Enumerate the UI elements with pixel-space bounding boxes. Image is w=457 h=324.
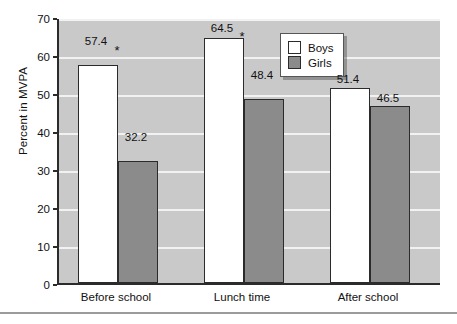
- plot-area: Boys Girls: [57, 19, 440, 285]
- x-axis-label-before-school: Before school: [81, 291, 151, 303]
- legend-item-boys[interactable]: Boys: [288, 41, 334, 54]
- bottom-divider: [0, 312, 457, 314]
- y-tick-label-20: 20: [0, 203, 57, 215]
- value-label-girls-before-school: 32.2: [125, 131, 147, 143]
- bar-boys-after-school[interactable]: [330, 88, 370, 283]
- value-label-girls-after-school: 46.5: [377, 92, 399, 104]
- bar-girls-before-school[interactable]: [118, 161, 158, 283]
- bar-boys-lunch-time[interactable]: [204, 38, 244, 283]
- legend-swatch-boys-icon: [288, 41, 301, 54]
- legend-item-girls[interactable]: Girls: [288, 56, 334, 69]
- value-label-boys-lunch-time: 64.5: [211, 22, 233, 34]
- significance-asterisk-before-school: *: [114, 48, 119, 54]
- bar-girls-after-school[interactable]: [370, 106, 410, 283]
- chart-figure: Percent in MVPA 0 10 20 30 40 50 60 70: [0, 0, 457, 324]
- legend-label-girls: Girls: [308, 57, 332, 69]
- value-label-boys-after-school: 51.4: [337, 73, 359, 85]
- value-label-girls-lunch-time: 48.4: [251, 69, 273, 81]
- y-tick-label-70: 70: [0, 13, 57, 25]
- bar-girls-lunch-time[interactable]: [244, 99, 284, 283]
- legend-label-boys: Boys: [308, 42, 334, 54]
- y-tick-label-50: 50: [0, 89, 57, 101]
- value-label-boys-before-school: 57.4: [85, 35, 107, 47]
- y-tick-label-10: 10: [0, 241, 57, 253]
- significance-asterisk-lunch-time: *: [239, 34, 244, 40]
- x-axis-label-lunch-time: Lunch time: [214, 291, 270, 303]
- y-tick-label-40: 40: [0, 127, 57, 139]
- bar-boys-before-school[interactable]: [78, 65, 118, 283]
- gridline-70: [59, 19, 440, 21]
- legend[interactable]: Boys Girls: [280, 33, 344, 77]
- y-tick-label-60: 60: [0, 51, 57, 63]
- y-tick-label-0: 0: [0, 279, 57, 291]
- y-tick-label-30: 30: [0, 165, 57, 177]
- legend-swatch-girls-icon: [288, 56, 301, 69]
- x-axis-label-after-school: After school: [338, 291, 399, 303]
